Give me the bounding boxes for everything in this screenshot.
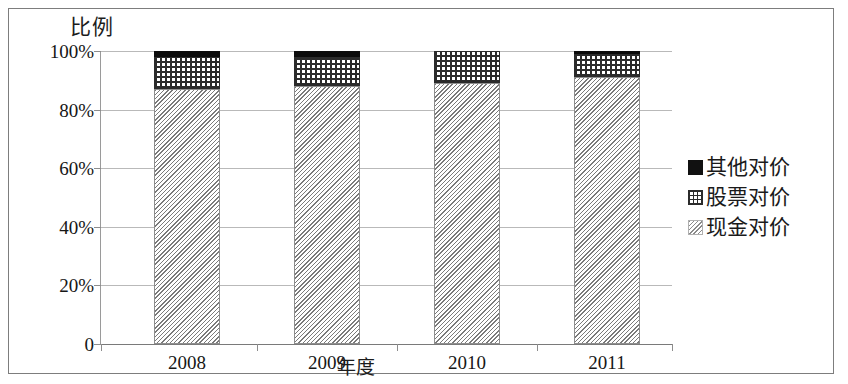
bar-segment-现金对价 [574,77,640,344]
bar-segment-现金对价 [154,89,220,344]
x-axis-tick-mark [101,344,102,351]
bar-segment-股票对价 [294,57,360,86]
bar-segment-股票对价 [434,51,500,83]
y-axis-tick-label: 0 [85,335,95,354]
y-axis-tick-label: 60% [59,159,94,178]
bar-2008 [154,51,220,344]
y-axis-tick-mark [94,168,101,169]
y-axis-tick-mark [94,344,101,345]
legend-swatch-icon [688,190,703,205]
bar-segment-其他对价 [574,51,640,54]
x-axis-tick-mark [537,344,538,351]
x-axis-tick-label: 2011 [567,352,647,374]
x-axis-tick-mark [397,344,398,351]
plot-area [101,51,672,344]
y-axis-tick-label: 40% [59,217,94,236]
y-axis-tick-mark [94,227,101,228]
bar-segment-其他对价 [154,51,220,57]
x-axis-tick-label: 2010 [427,352,507,374]
legend-item: 其他对价 [688,152,838,182]
y-axis-tick-label: 20% [59,276,94,295]
y-axis-tick-label: 100% [50,42,94,61]
legend-item-label: 其他对价 [706,157,790,178]
x-axis-tick-label: 2008 [147,352,227,374]
x-axis-tick-mark [672,344,673,351]
bar-2011 [574,51,640,344]
bar-segment-股票对价 [574,54,640,77]
bar-2010 [434,51,500,344]
bar-segment-股票对价 [154,57,220,89]
legend-item-label: 现金对价 [706,217,790,238]
legend-swatch-icon [688,160,703,175]
legend-item: 现金对价 [688,212,838,242]
y-axis-tick-mark [94,285,101,286]
bar-segment-其他对价 [294,51,360,57]
x-axis-tick-mark [257,344,258,351]
y-axis-tick-mark [94,110,101,111]
y-axis-tick-labels: 020%40%60%80%100% [20,0,94,384]
y-axis-tick-label: 80% [59,100,94,119]
y-axis-tick-mark [94,51,101,52]
bar-segment-现金对价 [294,86,360,344]
chart-legend: 其他对价股票对价现金对价 [688,152,838,242]
legend-item: 股票对价 [688,182,838,212]
x-axis-title: 年度 [337,352,375,379]
legend-swatch-icon [688,220,703,235]
legend-item-label: 股票对价 [706,187,790,208]
x-axis-line [101,344,672,345]
stacked-bar-chart-figure: 比例 020%40%60%80%100% 2008200920102011 年度… [0,0,848,384]
bar-2009 [294,51,360,344]
bar-segment-现金对价 [434,83,500,344]
